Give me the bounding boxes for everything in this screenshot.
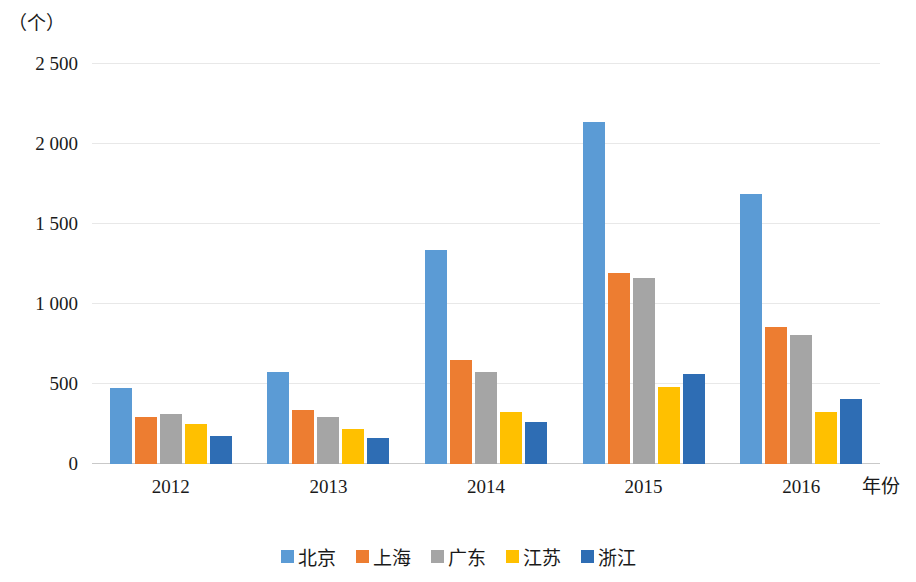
bar[interactable] <box>740 194 762 464</box>
legend-swatch-icon <box>356 550 369 563</box>
bar[interactable] <box>790 335 812 464</box>
bar[interactable] <box>210 436 232 464</box>
legend-swatch-icon <box>581 550 594 563</box>
x-axis-tick-label: 2013 <box>250 470 408 504</box>
bar-group <box>722 64 880 464</box>
legend-item[interactable]: 浙江 <box>581 543 636 570</box>
x-axis-title: 年份 <box>862 470 900 504</box>
y-axis-unit-label: （个） <box>8 8 65 35</box>
legend-label: 广东 <box>448 543 486 570</box>
bar-groups <box>92 64 880 464</box>
y-axis-tick-label: 2 500 <box>35 53 78 75</box>
bar[interactable] <box>500 412 522 464</box>
bar-group <box>250 64 408 464</box>
bar-group <box>565 64 723 464</box>
bar[interactable] <box>342 429 364 464</box>
bar-chart: （个） 05001 0001 5002 0002 500 20122013201… <box>0 0 916 582</box>
bar[interactable] <box>185 424 207 464</box>
y-axis-tick-label: 2 000 <box>35 133 78 155</box>
bar[interactable] <box>367 438 389 464</box>
bar[interactable] <box>683 374 705 464</box>
bar[interactable] <box>267 372 289 464</box>
x-axis-tick-label: 2016 <box>722 470 880 504</box>
bar-set <box>740 64 862 464</box>
bar[interactable] <box>633 278 655 464</box>
bar[interactable] <box>292 410 314 464</box>
legend-swatch-icon <box>281 550 294 563</box>
y-axis-tick-label: 500 <box>50 373 79 395</box>
legend-label: 上海 <box>373 543 411 570</box>
bar-set <box>425 64 547 464</box>
bar[interactable] <box>840 399 862 464</box>
legend-label: 浙江 <box>598 543 636 570</box>
bar[interactable] <box>658 387 680 464</box>
bar-group <box>92 64 250 464</box>
bar[interactable] <box>815 412 837 464</box>
y-axis-tick-label: 0 <box>69 453 79 475</box>
bar[interactable] <box>425 250 447 464</box>
y-axis-tick-label: 1 000 <box>35 293 78 315</box>
bar[interactable] <box>110 388 132 464</box>
bar-group <box>407 64 565 464</box>
x-axis-tick-label: 2012 <box>92 470 250 504</box>
legend-swatch-icon <box>431 550 444 563</box>
chart-legend: 北京上海广东江苏浙江 <box>0 543 916 570</box>
legend-item[interactable]: 江苏 <box>506 543 561 570</box>
bar[interactable] <box>608 273 630 464</box>
bar[interactable] <box>160 414 182 464</box>
x-axis-tick-label: 2014 <box>407 470 565 504</box>
legend-label: 江苏 <box>523 543 561 570</box>
legend-item[interactable]: 上海 <box>356 543 411 570</box>
bar[interactable] <box>317 417 339 464</box>
legend-swatch-icon <box>506 550 519 563</box>
bar-set <box>583 64 705 464</box>
bar[interactable] <box>135 417 157 464</box>
legend-item[interactable]: 广东 <box>431 543 486 570</box>
bar[interactable] <box>450 360 472 464</box>
legend-label: 北京 <box>298 543 336 570</box>
legend-item[interactable]: 北京 <box>281 543 336 570</box>
bar[interactable] <box>525 422 547 464</box>
x-axis-tick-labels: 20122013201420152016 <box>92 470 880 504</box>
bar[interactable] <box>583 122 605 464</box>
bar[interactable] <box>475 372 497 464</box>
bar[interactable] <box>765 327 787 464</box>
y-axis-tick-label: 1 500 <box>35 213 78 235</box>
plot-area: 05001 0001 5002 0002 500 <box>92 64 880 464</box>
bar-set <box>267 64 389 464</box>
bar-set <box>110 64 232 464</box>
x-axis-tick-label: 2015 <box>565 470 723 504</box>
